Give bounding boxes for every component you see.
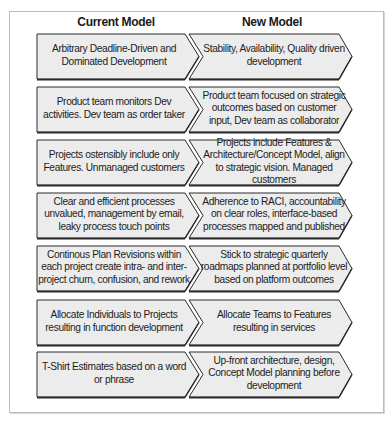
new-model-text: Adherence to RACI, accountability on cle… xyxy=(200,191,348,238)
current-model-header: Current Model xyxy=(36,15,196,29)
new-model-text: Projects include Features & Architecture… xyxy=(200,138,348,185)
new-model-text: Stick to strategic quarterly roadmaps pl… xyxy=(200,244,348,291)
new-model-text: Stability, Availability, Quality driven … xyxy=(200,32,348,79)
current-model-text: Arbitrary Deadline-Driven and Dominated … xyxy=(38,32,190,79)
comparison-row: Clear and efficient processes unvalued, … xyxy=(0,191,389,239)
new-model-text: Product team focused on strategic outcom… xyxy=(200,85,348,132)
comparison-row: T-Shirt Estimates based on a word or phr… xyxy=(0,350,389,398)
new-model-text: Allocate Teams to Features resulting in … xyxy=(200,298,348,345)
comparison-row: Product team monitors Dev activities. De… xyxy=(0,85,389,133)
new-model-header: New Model xyxy=(192,15,352,29)
comparison-row: Arbitrary Deadline-Driven and Dominated … xyxy=(0,32,389,80)
current-model-text: Clear and efficient processes unvalued, … xyxy=(38,191,190,238)
comparison-row: Projects ostensibly include only Feature… xyxy=(0,138,389,186)
current-model-text: Allocate Individuals to Projects resulti… xyxy=(38,298,190,345)
comparison-row: Allocate Individuals to Projects resulti… xyxy=(0,298,389,346)
new-model-text: Up-front architecture, design, Concept M… xyxy=(200,350,348,397)
current-model-text: Projects ostensibly include only Feature… xyxy=(38,138,190,185)
current-model-text: Continous Plan Revisions within each pro… xyxy=(38,244,190,291)
comparison-row: Continous Plan Revisions within each pro… xyxy=(0,244,389,292)
current-model-text: T-Shirt Estimates based on a word or phr… xyxy=(38,350,190,397)
current-model-text: Product team monitors Dev activities. De… xyxy=(38,85,190,132)
